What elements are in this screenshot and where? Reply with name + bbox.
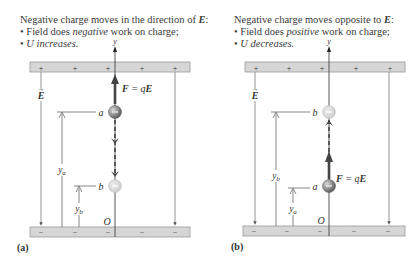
point-label: b <box>313 107 318 118</box>
force-arrow: F = qE <box>111 74 152 104</box>
origin-label: O <box>103 216 110 227</box>
plus-sign: + <box>140 64 145 73</box>
origin-label: O <box>317 215 324 226</box>
minus-sign: − <box>252 227 257 236</box>
plus-sign: + <box>287 64 292 73</box>
vector-arrow-icon: → <box>38 85 45 93</box>
plus-sign: + <box>39 64 44 73</box>
panel-a: + + + + + − − − − − E → y O <box>17 37 190 254</box>
point-label: b <box>99 181 104 192</box>
positive-plate: + + + + + <box>245 62 405 73</box>
charge-a: a <box>99 106 122 119</box>
panel-label-a: (a) <box>17 242 29 254</box>
panel-label-b: (b) <box>231 241 243 253</box>
axis-arrow-icon <box>113 46 117 52</box>
plus-sign: + <box>106 64 111 73</box>
minus-sign: − <box>285 227 290 236</box>
charge-b: b <box>313 106 336 119</box>
negative-plate: − − − − − <box>243 226 405 236</box>
vector-arrow-icon: → <box>252 85 259 93</box>
point-label: a <box>313 181 318 192</box>
charge-b: b <box>99 180 122 193</box>
axis-arrow-icon <box>327 46 331 52</box>
y-axis-label: y <box>112 37 117 46</box>
plus-sign: + <box>320 64 325 73</box>
height-yb: yb <box>72 186 96 227</box>
field-line-left: E → <box>251 72 259 223</box>
force-arrow: F = qE <box>325 151 366 184</box>
diagram-canvas: + + + + + − − − − − E → y O <box>0 0 420 265</box>
field-line-left: E → <box>37 72 45 224</box>
minus-sign: − <box>39 228 44 237</box>
minus-sign: − <box>73 228 78 237</box>
charge-a: a <box>313 180 336 193</box>
plus-sign: + <box>354 64 359 73</box>
plus-sign: + <box>254 64 259 73</box>
minus-sign: − <box>318 227 323 236</box>
minus-sign: − <box>173 228 178 237</box>
point-label: a <box>99 107 104 118</box>
panel-b: + + + + + − − − − − E → y O <box>231 37 405 253</box>
plus-sign: + <box>73 64 78 73</box>
force-equation: F = qE <box>335 173 366 184</box>
y-axis-label: y <box>326 37 331 46</box>
plus-sign: + <box>388 64 393 73</box>
minus-sign: − <box>106 228 111 237</box>
minus-sign: − <box>386 227 391 236</box>
plus-sign: + <box>173 64 178 73</box>
minus-sign: − <box>352 227 357 236</box>
positive-plate: + + + + + <box>30 62 190 73</box>
height-ya: ya <box>286 188 310 226</box>
minus-sign: − <box>140 228 145 237</box>
negative-plate: − − − − − <box>30 227 190 237</box>
force-equation: F = qE <box>121 83 152 94</box>
